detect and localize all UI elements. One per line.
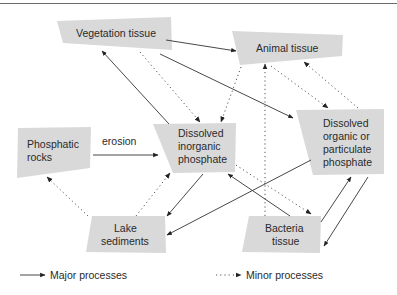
legend-minor-label: Minor processes — [246, 269, 323, 281]
edge-animal-to-dopp — [271, 66, 328, 108]
edge-bacteria-to-dopp — [321, 177, 351, 222]
edge-dip-to-lake-sediments — [167, 174, 203, 216]
legend-major-label: Major processes — [50, 269, 127, 281]
node-label-line: Lake — [114, 222, 137, 234]
phosphorus-cycle-diagram: Vegetation tissue Animal tissue Phosphat… — [0, 0, 397, 295]
node-label-line: Dissolved — [178, 127, 224, 139]
node-label-line: sediments — [101, 235, 149, 247]
node-label-line: tissue — [272, 235, 300, 247]
node-label-line: phosphate — [323, 156, 372, 168]
node-dissolved-organic-particulate-phosphate: Dissolved organic or particulate phospha… — [296, 109, 384, 175]
edge-bacteria-to-dip — [228, 174, 290, 216]
edge-vegetation-to-animal — [166, 40, 236, 51]
legend-item-major: Major processes — [20, 269, 127, 281]
edge-lake-sediments-to-dip — [136, 173, 170, 216]
node-label-line: particulate — [323, 143, 372, 155]
node-label: Animal tissue — [256, 42, 319, 54]
node-label-line: phosphate — [178, 153, 227, 165]
node-bacteria-tissue: Bacteria tissue — [242, 216, 321, 253]
edge-animal-to-dip — [221, 67, 241, 122]
legend-item-minor: Minor processes — [216, 269, 323, 281]
node-phosphatic-rocks: Phosphatic rocks — [17, 127, 91, 178]
edge-dopp-to-animal — [304, 62, 358, 108]
edge-lake-sediments-to-rocks — [47, 177, 88, 216]
edge-dopp-to-bacteria — [324, 177, 368, 246]
edge-dip-to-bacteria — [236, 165, 311, 214]
edge-vegetation-to-dip — [140, 52, 200, 122]
node-label-line: inorganic — [178, 140, 221, 152]
node-label-line: Dissolved — [323, 117, 369, 129]
node-label-line: Phosphatic — [27, 138, 79, 150]
node-label-line: rocks — [27, 151, 52, 163]
edge-dip-to-vegetation — [102, 51, 169, 124]
edge-vegetation-to-dopp — [160, 54, 293, 118]
node-label-line: organic or — [323, 130, 370, 142]
legend: Major processes Minor processes — [20, 269, 323, 281]
node-dissolved-inorganic-phosphate: Dissolved inorganic phosphate — [153, 123, 236, 173]
node-label-line: Bacteria — [265, 222, 304, 234]
node-animal-tissue: Animal tissue — [232, 31, 343, 65]
node-label: Vegetation tissue — [76, 27, 156, 39]
node-lake-sediments: Lake sediments — [86, 216, 166, 253]
node-vegetation-tissue: Vegetation tissue — [57, 17, 172, 50]
edge-label-erosion: erosion — [102, 135, 137, 147]
